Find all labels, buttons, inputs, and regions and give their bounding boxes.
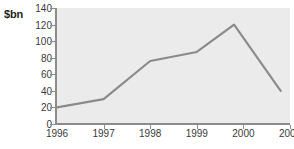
x-tick-mark <box>197 125 198 129</box>
x-tick-label: 2000 <box>232 128 254 139</box>
x-tick-label: 1996 <box>46 128 68 139</box>
x-tick-mark <box>150 125 151 129</box>
line-chart: $bn 140120100806040200 19961997199819992… <box>0 0 294 149</box>
x-tick-label: 2001 <box>279 128 294 139</box>
x-tick-mark <box>290 125 291 129</box>
x-tick-mark <box>104 125 105 129</box>
x-axis-ticks: 199619971998199920002001 <box>0 0 294 149</box>
x-tick-mark <box>243 125 244 129</box>
x-tick-label: 1997 <box>92 128 114 139</box>
x-tick-label: 1999 <box>186 128 208 139</box>
x-tick-label: 1998 <box>139 128 161 139</box>
